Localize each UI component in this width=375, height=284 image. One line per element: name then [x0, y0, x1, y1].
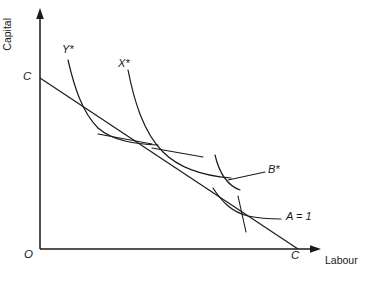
curve-b-star [215, 155, 240, 190]
x-axis-arrowhead [310, 245, 321, 253]
y-axis-arrowhead [36, 8, 44, 19]
curve-y-star [68, 60, 158, 145]
tangent-segment-x-star [152, 148, 203, 157]
curve-label-a-one: A = 1 [286, 211, 312, 222]
x-axis [40, 245, 321, 253]
labour-intercept-label: C [291, 250, 299, 262]
capital-intercept-label: C [23, 71, 31, 83]
tangent-segment-y-star [98, 134, 152, 144]
isoquant-diagram: Capital Labour O C C Y* X* B* A = 1 [0, 0, 375, 284]
y-axis-title: Capital [2, 18, 13, 51]
y-axis [36, 8, 44, 249]
x-axis-title: Labour [325, 255, 358, 266]
curve-label-x-star: X* [118, 58, 130, 69]
origin-label: O [24, 249, 33, 261]
budget-line [40, 78, 298, 249]
curve-x-star [128, 70, 231, 178]
curve-label-b-star: B* [268, 164, 280, 175]
tangent-segment-b-star [228, 172, 265, 180]
curve-a-one [213, 188, 281, 219]
curve-label-y-star: Y* [62, 44, 74, 55]
diagram-canvas [0, 0, 375, 284]
